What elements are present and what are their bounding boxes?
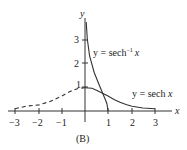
chart: −3 −2 −1 1 2 3 1 2 3 x y y = sech−1x y =… [0,0,187,150]
arcsech-curve [86,22,108,111]
x-tick-label: 1 [106,117,111,128]
x-tick-label: −3 [9,117,20,128]
y-tick-label: 2 [74,58,79,69]
arcsech-label: y = sech−1x [93,47,140,58]
caption: (B) [76,133,89,145]
x-axis-label: x [174,105,180,116]
x-tick-label: −2 [32,117,43,128]
y-axis-label: y [79,8,85,19]
sech-curve-dashed [15,88,85,109]
x-tick-label: 2 [130,117,135,128]
y-tick-label: 3 [74,34,79,45]
y-tick-label: 1 [76,79,81,90]
x-tick-label: 3 [153,117,158,128]
sech-label: y = sech x [132,88,173,99]
x-tick-label: −1 [56,117,67,128]
